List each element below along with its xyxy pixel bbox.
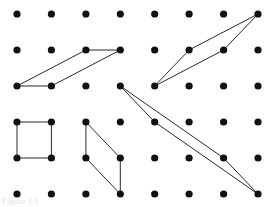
grid-dot-r4-c7 — [254, 154, 261, 161]
grid-dot-r3-c0 — [13, 118, 20, 125]
geoboard-canvas — [0, 0, 277, 207]
grid-dot-r1-c0 — [13, 46, 20, 53]
grid-dot-r0-c0 — [13, 10, 20, 17]
grid-dot-r5-c4 — [151, 190, 158, 197]
grid-dot-r4-c2 — [82, 154, 89, 161]
grid-dot-r4-c3 — [117, 154, 124, 161]
figure-background — [0, 0, 277, 207]
grid-dot-r4-c1 — [48, 154, 55, 161]
grid-dot-r1-c1 — [48, 46, 55, 53]
grid-dot-r0-c1 — [48, 10, 55, 17]
grid-dot-r4-c0 — [13, 154, 20, 161]
grid-dot-r1-c7 — [254, 46, 261, 53]
grid-dot-r2-c3 — [117, 82, 124, 89]
grid-dot-r1-c6 — [220, 46, 227, 53]
grid-dot-r1-c3 — [117, 46, 124, 53]
grid-dot-r5-c6 — [220, 190, 227, 197]
grid-dot-r3-c2 — [82, 118, 89, 125]
grid-dot-r0-c6 — [220, 10, 227, 17]
grid-dot-r4-c4 — [151, 154, 158, 161]
grid-dot-r0-c3 — [117, 10, 124, 17]
grid-dot-r1-c4 — [151, 46, 158, 53]
grid-dot-r0-c4 — [151, 10, 158, 17]
grid-dot-r0-c5 — [186, 10, 193, 17]
grid-dot-r4-c5 — [186, 154, 193, 161]
grid-dot-r3-c4 — [151, 118, 158, 125]
grid-dot-r2-c1 — [48, 82, 55, 89]
grid-dot-r3-c1 — [48, 118, 55, 125]
grid-dot-r3-c6 — [220, 118, 227, 125]
grid-dot-r3-c3 — [117, 118, 124, 125]
grid-dot-r2-c0 — [13, 82, 20, 89]
grid-dot-r0-c2 — [82, 10, 89, 17]
grid-dot-r2-c4 — [151, 82, 158, 89]
grid-dot-r5-c7 — [254, 190, 261, 197]
grid-dot-r2-c6 — [220, 82, 227, 89]
grid-dot-r0-c7 — [254, 10, 261, 17]
grid-dot-r2-c5 — [186, 82, 193, 89]
geoboard-figure: Figure 1.1 — [0, 0, 277, 207]
grid-dot-r5-c3 — [117, 190, 124, 197]
grid-dot-r1-c5 — [186, 46, 193, 53]
grid-dot-r3-c7 — [254, 118, 261, 125]
grid-dot-r2-c7 — [254, 82, 261, 89]
grid-dot-r5-c1 — [48, 190, 55, 197]
grid-dot-r5-c5 — [186, 190, 193, 197]
grid-dot-r5-c0 — [13, 190, 20, 197]
grid-dot-r5-c2 — [82, 190, 89, 197]
grid-dot-r3-c5 — [186, 118, 193, 125]
grid-dot-r2-c2 — [82, 82, 89, 89]
grid-dot-r1-c2 — [82, 46, 89, 53]
grid-dot-r4-c6 — [220, 154, 227, 161]
